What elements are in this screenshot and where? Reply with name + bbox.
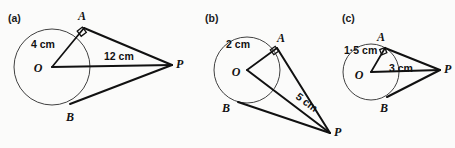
panel-b: (b) O A B P 2 cm 5 cm (205, 12, 342, 139)
distance-label-a: 12 cm (104, 50, 134, 62)
point-label-o-c: O (355, 68, 364, 82)
radius-label-b: 2 cm (226, 38, 250, 50)
point-label-p-c: P (444, 62, 452, 76)
panel-a: (a) O A B P 4 cm 12 cm (8, 9, 184, 124)
point-label-a-a: A (77, 9, 86, 23)
point-label-a-b: A (276, 31, 285, 45)
point-label-b-b: B (221, 101, 230, 115)
radius-label-c: 1·5 cm (344, 44, 377, 56)
geometry-figure: (a) O A B P 4 cm 12 cm (b) O A B P 2 cm … (0, 0, 455, 148)
panel-c: (c) O A B P 1·5 cm 3 cm (342, 12, 452, 115)
point-label-p-b: P (334, 125, 342, 139)
panel-label-c: (c) (342, 12, 355, 24)
point-label-o-b: O (232, 65, 241, 79)
figure-canvas: (a) O A B P 4 cm 12 cm (b) O A B P 2 cm … (0, 0, 455, 148)
tangent-bp-c (387, 70, 440, 97)
point-label-p-a: P (176, 57, 184, 71)
panel-label-b: (b) (205, 12, 218, 24)
segment-op-a (52, 65, 172, 67)
panel-label-a: (a) (8, 12, 21, 24)
point-label-b-c: B (379, 101, 388, 115)
distance-label-c: 3 cm (389, 62, 413, 74)
point-label-o-a: O (34, 61, 43, 75)
tangent-ap-b (277, 48, 330, 133)
radius-oa-b (247, 48, 277, 70)
point-label-a-c: A (376, 30, 385, 44)
point-label-b-a: B (65, 110, 74, 124)
radius-label-a: 4 cm (31, 38, 55, 50)
